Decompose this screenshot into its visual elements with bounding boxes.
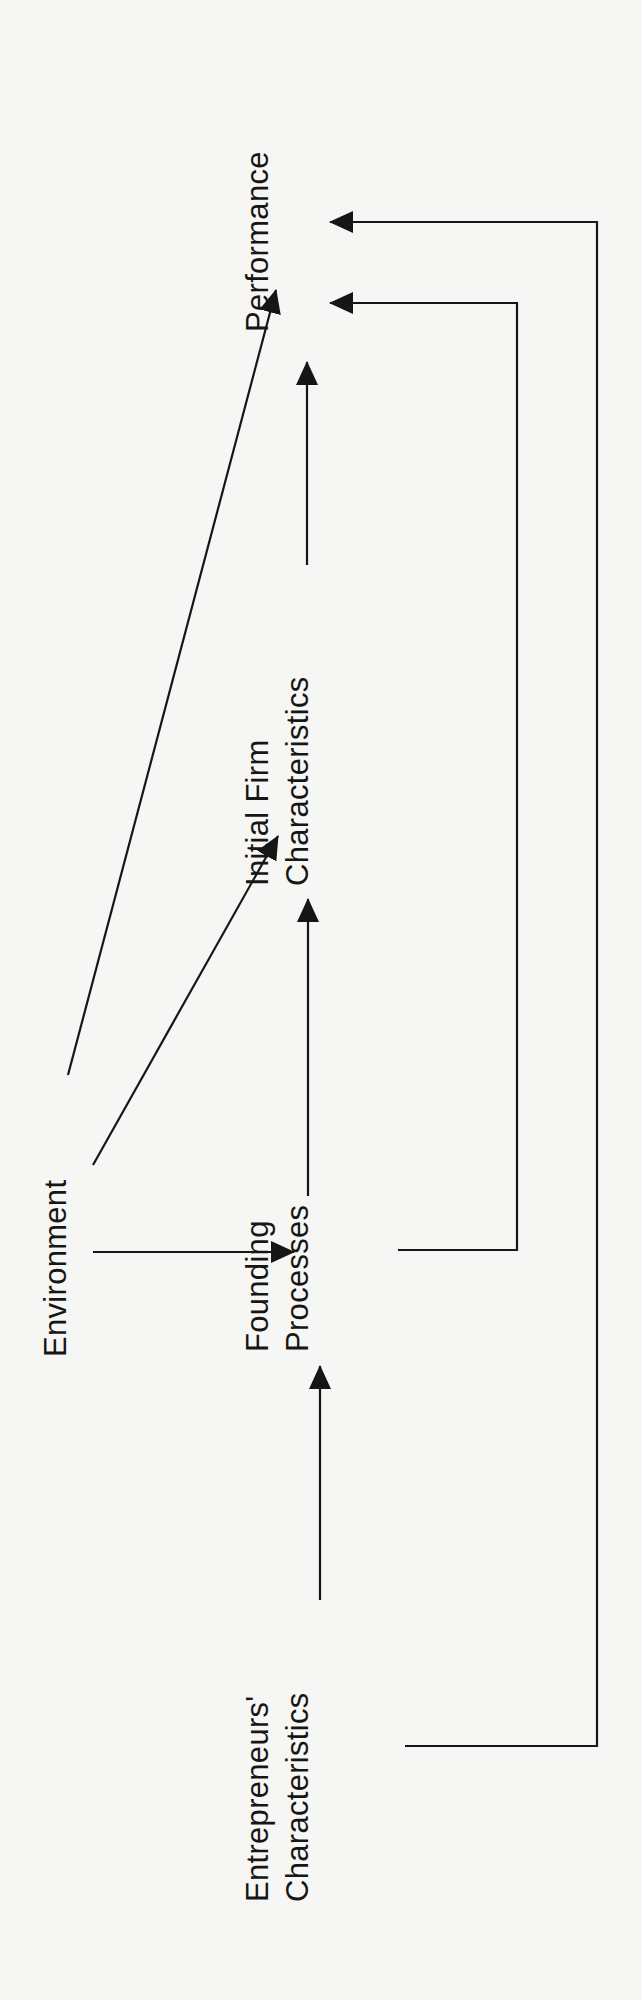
node-performance-line1: Performance [238, 151, 278, 332]
node-initial-firm: Initial Firm Characteristics [238, 677, 318, 887]
node-initial-firm-line2: Characteristics [278, 677, 318, 887]
node-entrepreneurs-line1: Entrepreneurs' [238, 1693, 278, 1903]
node-performance: Performance [238, 151, 278, 332]
node-initial-firm-line1: Initial Firm [238, 677, 278, 887]
node-founding: Founding Processes [238, 1205, 318, 1352]
node-founding-line1: Founding [238, 1205, 278, 1352]
node-environment-line1: Environment [36, 1180, 76, 1357]
node-entrepreneurs-line2: Characteristics [278, 1693, 318, 1903]
diagram-canvas [0, 0, 642, 2000]
node-founding-line2: Processes [278, 1205, 318, 1352]
node-environment: Environment [36, 1180, 76, 1357]
edge-entrepreneurs-performance [330, 222, 597, 1746]
edge-founding-performance [330, 303, 517, 1250]
node-entrepreneurs: Entrepreneurs' Characteristics [238, 1693, 318, 1903]
